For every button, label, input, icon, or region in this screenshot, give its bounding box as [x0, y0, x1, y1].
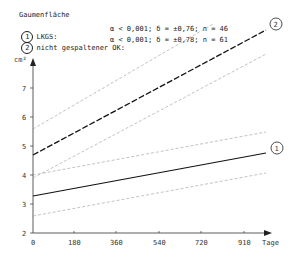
series-1-line [33, 153, 266, 196]
chart-plot: 2 3 4 5 6 7 cm² 0 180 360 540 720 910 Ta… [0, 0, 296, 258]
y-tick-label: 6 [22, 114, 26, 122]
x-tick-label: 540 [153, 239, 166, 247]
x-tick-label: 910 [238, 239, 251, 247]
x-axis-unit: Tage [262, 239, 279, 247]
x-tick-label: 0 [31, 239, 35, 247]
series-1-marker: 1 [271, 142, 283, 154]
y-tick-label: 7 [22, 85, 26, 93]
x-tick-label: 720 [195, 239, 208, 247]
y-axis-unit: cm² [14, 56, 27, 64]
series-2-upper-band [33, 24, 213, 129]
x-tick-label: 360 [110, 239, 123, 247]
y-tick-label: 4 [22, 172, 26, 180]
series-1-lower-band [33, 173, 266, 216]
svg-text:2: 2 [274, 21, 278, 29]
y-ticks: 2 3 4 5 6 7 [22, 85, 33, 238]
x-axis-arrow-icon [264, 230, 272, 236]
series-2-line [33, 30, 266, 155]
x-tick-label: 180 [68, 239, 81, 247]
y-tick-label: 5 [22, 143, 26, 151]
series-2-marker: 2 [270, 18, 282, 30]
y-axis-arrow-icon [30, 58, 36, 66]
series-1-upper-band [33, 132, 266, 175]
svg-text:1: 1 [275, 145, 279, 153]
y-tick-label: 2 [22, 230, 26, 238]
y-tick-label: 3 [22, 201, 26, 209]
